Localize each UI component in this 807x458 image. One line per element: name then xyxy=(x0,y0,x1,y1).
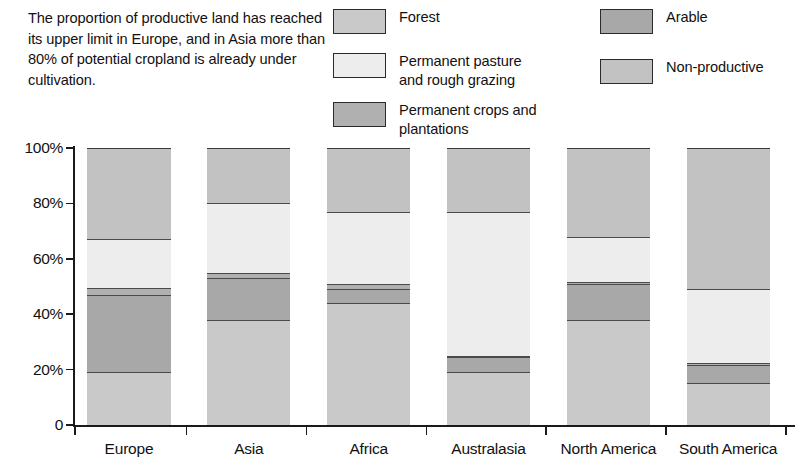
bar-segment xyxy=(447,372,530,425)
legend-swatch-forest xyxy=(333,9,386,34)
legend-label-arable: Arable xyxy=(666,8,708,27)
bar-segment xyxy=(567,320,650,425)
chart-legend: ForestPermanent pasture and rough grazin… xyxy=(333,0,807,140)
legend-label-pasture: Permanent pasture and rough grazing xyxy=(399,52,521,89)
bar-segment xyxy=(207,148,290,203)
legend-swatch-nonproductive xyxy=(600,59,653,84)
bar-europe xyxy=(88,148,170,425)
bar-segment xyxy=(567,237,650,283)
x-tick-mark xyxy=(186,427,188,435)
x-tick-mark xyxy=(74,427,76,435)
legend-item-pasture: Permanent pasture and rough grazing xyxy=(333,52,521,89)
y-tick-label: 20% xyxy=(33,361,63,379)
bar-segment xyxy=(327,284,410,290)
bar-segment xyxy=(87,295,170,373)
y-tick-label: 40% xyxy=(33,305,63,323)
bar-segment xyxy=(687,383,770,425)
y-tick-label: 0 xyxy=(55,416,63,434)
bar-asia xyxy=(208,148,290,425)
legend-swatch-pasture xyxy=(333,53,386,78)
x-tick-mark xyxy=(426,427,428,435)
y-tick-mark xyxy=(66,369,74,371)
x-axis-label-australasia: Australasia xyxy=(451,440,525,458)
bar-africa xyxy=(328,148,410,425)
y-tick-label: 100% xyxy=(25,139,63,157)
bar-segment xyxy=(207,203,290,272)
x-axis-label-north-america: North America xyxy=(561,440,657,458)
bar-segment xyxy=(447,357,530,372)
legend-item-crops: Permanent crops and plantations xyxy=(333,101,537,138)
legend-label-forest: Forest xyxy=(399,8,440,27)
x-tick-mark xyxy=(306,427,308,435)
bar-segment xyxy=(87,372,170,425)
caption-text: The proportion of productive land has re… xyxy=(28,8,328,90)
legend-item-forest: Forest xyxy=(333,8,440,34)
bar-segment xyxy=(207,273,290,279)
bar-segment xyxy=(327,148,410,212)
x-tick-mark xyxy=(785,427,787,435)
x-axis-label-south-america: South America xyxy=(679,440,777,458)
bar-south-america xyxy=(687,148,769,425)
bar-north-america xyxy=(567,148,649,425)
y-tick-mark xyxy=(66,147,74,149)
bar-segment xyxy=(687,365,770,383)
bar-segment xyxy=(567,148,650,237)
bar-segment xyxy=(87,239,170,287)
legend-swatch-crops xyxy=(333,102,386,127)
bar-segment xyxy=(447,148,530,212)
bar-segment xyxy=(87,288,170,295)
x-axis-label-africa: Africa xyxy=(349,440,387,458)
bar-segment xyxy=(327,289,410,303)
bar-segment xyxy=(207,320,290,425)
y-tick-mark xyxy=(66,313,74,315)
bar-segment xyxy=(567,282,650,283)
bar-segment xyxy=(567,284,650,320)
x-tick-mark xyxy=(545,427,547,435)
header-area: The proportion of productive land has re… xyxy=(0,0,807,140)
legend-label-crops: Permanent crops and plantations xyxy=(399,101,537,138)
x-axis-line xyxy=(73,425,795,427)
y-tick-label: 60% xyxy=(33,250,63,268)
legend-swatch-arable xyxy=(600,9,653,34)
bar-segment xyxy=(687,148,770,289)
y-tick-mark xyxy=(66,203,74,205)
bar-australasia xyxy=(448,148,530,425)
bar-segment xyxy=(447,212,530,356)
legend-item-nonproductive: Non-productive xyxy=(600,58,764,84)
y-tick-label: 80% xyxy=(33,194,63,212)
bar-segment xyxy=(687,363,770,366)
plot-area xyxy=(74,148,793,425)
x-tick-mark xyxy=(665,427,667,435)
bar-segment xyxy=(687,289,770,362)
bar-segment xyxy=(447,356,530,357)
legend-item-arable: Arable xyxy=(600,8,708,34)
legend-label-nonproductive: Non-productive xyxy=(666,58,764,77)
x-axis-label-europe: Europe xyxy=(105,440,154,458)
x-axis-label-asia: Asia xyxy=(234,440,263,458)
bar-segment xyxy=(207,278,290,320)
y-tick-mark xyxy=(66,424,74,426)
y-tick-mark xyxy=(66,258,74,260)
bar-segment xyxy=(327,212,410,284)
stacked-bar-chart: 020%40%60%80%100% EuropeAsiaAfricaAustra… xyxy=(0,140,807,458)
bar-segment xyxy=(327,303,410,425)
bar-segment xyxy=(87,148,170,239)
